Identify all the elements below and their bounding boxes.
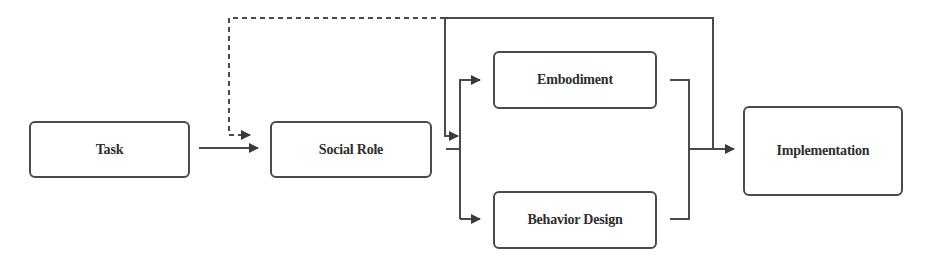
node-implementation-label: Implementation [777, 143, 870, 159]
arrow-to-embodiment [460, 80, 480, 219]
node-task-label: Task [96, 142, 124, 158]
node-task: Task [29, 121, 190, 178]
merge-bracket [670, 80, 689, 219]
node-behavior-design-label: Behavior Design [527, 212, 622, 228]
node-social-role: Social Role [270, 121, 432, 178]
node-embodiment: Embodiment [493, 51, 657, 109]
node-social-role-label: Social Role [319, 142, 383, 158]
node-implementation: Implementation [743, 106, 903, 196]
node-behavior-design: Behavior Design [493, 191, 657, 249]
node-embodiment-label: Embodiment [537, 72, 613, 88]
dashed-feedback-arrow [229, 18, 445, 135]
diagram-canvas: Task Social Role Embodiment Behavior Des… [0, 0, 935, 260]
